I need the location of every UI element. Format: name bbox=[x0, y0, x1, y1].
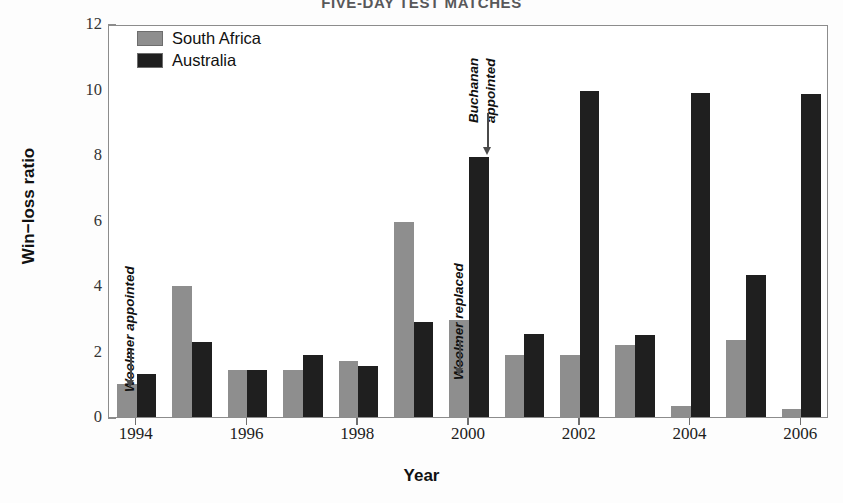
bar-australia-2006 bbox=[801, 94, 821, 417]
bar-australia-1994 bbox=[137, 374, 157, 417]
y-tick-label: 12 bbox=[62, 14, 102, 34]
x-tick-mark bbox=[356, 418, 358, 425]
chart-figure: FIVE-DAY TEST MATCHES Win−loss ratio Yea… bbox=[0, 0, 843, 503]
bar-south-africa-2005 bbox=[726, 340, 746, 417]
legend-item-south-africa: South Africa bbox=[137, 29, 261, 48]
bar-south-africa-2006 bbox=[782, 409, 802, 417]
x-axis-label: Year bbox=[0, 466, 843, 486]
bar-south-africa-2004 bbox=[671, 406, 691, 417]
x-tick-mark bbox=[800, 418, 802, 425]
bar-south-africa-1998 bbox=[339, 361, 359, 417]
bar-south-africa-2001 bbox=[505, 355, 525, 417]
annotation-buchanan-line1: Buchanan bbox=[466, 58, 481, 123]
legend-swatch-south-africa bbox=[137, 31, 163, 46]
x-tick-mark bbox=[467, 418, 469, 425]
y-tick-label: 8 bbox=[62, 145, 102, 165]
x-tick-mark bbox=[689, 418, 691, 425]
bar-australia-2002 bbox=[580, 91, 600, 417]
bar-australia-2004 bbox=[691, 93, 711, 417]
bar-australia-2005 bbox=[746, 275, 766, 417]
y-tick-label: 6 bbox=[62, 211, 102, 231]
x-tick-label: 1998 bbox=[312, 424, 402, 444]
bar-south-africa-1997 bbox=[283, 370, 303, 417]
bar-south-africa-1995 bbox=[172, 286, 192, 417]
x-tick-label: 2002 bbox=[534, 424, 624, 444]
bar-south-africa-1999 bbox=[394, 222, 414, 417]
bar-australia-1995 bbox=[192, 342, 212, 417]
annotation-arrow-head-buchanan bbox=[483, 147, 491, 155]
x-tick-mark bbox=[246, 418, 248, 425]
annotation-arrow-line-buchanan bbox=[487, 113, 489, 149]
bar-australia-1999 bbox=[414, 322, 434, 417]
annotation-arrow-head-woolmer-appointed bbox=[126, 380, 134, 388]
bar-australia-2003 bbox=[635, 335, 655, 417]
x-tick-label: 1994 bbox=[91, 424, 181, 444]
legend-item-australia: Australia bbox=[137, 51, 261, 70]
bar-australia-2001 bbox=[524, 334, 544, 418]
chart-title: FIVE-DAY TEST MATCHES bbox=[0, 0, 843, 11]
bar-south-africa-2003 bbox=[615, 345, 635, 417]
bar-australia-1997 bbox=[303, 355, 323, 417]
y-tick-label: 2 bbox=[62, 342, 102, 362]
legend-swatch-australia bbox=[137, 53, 163, 68]
bar-south-africa-2002 bbox=[560, 355, 580, 417]
bar-australia-2000 bbox=[469, 157, 489, 417]
x-tick-mark bbox=[135, 418, 137, 425]
y-axis-label: Win−loss ratio bbox=[19, 91, 39, 321]
x-tick-mark bbox=[578, 418, 580, 425]
x-tick-label: 2006 bbox=[755, 424, 843, 444]
annotation-arrow-line-woolmer-appointed bbox=[130, 350, 132, 382]
bar-australia-1996 bbox=[247, 370, 267, 417]
y-tick-label: 10 bbox=[62, 80, 102, 100]
y-tick-label: 4 bbox=[62, 276, 102, 296]
bar-australia-1998 bbox=[358, 366, 378, 417]
x-tick-label: 2000 bbox=[423, 424, 513, 444]
legend-label-south-africa: South Africa bbox=[172, 29, 261, 48]
chart-legend: South Africa Australia bbox=[137, 29, 261, 73]
annotation-buchanan-line2: appointed bbox=[483, 59, 498, 124]
annotation-arrow-line-woolmer-replaced bbox=[459, 340, 461, 370]
annotation-arrow-head-woolmer-replaced bbox=[455, 368, 463, 376]
bar-south-africa-1996 bbox=[228, 370, 248, 417]
legend-label-australia: Australia bbox=[172, 51, 236, 70]
x-tick-label: 2004 bbox=[645, 424, 735, 444]
x-tick-label: 1996 bbox=[201, 424, 291, 444]
